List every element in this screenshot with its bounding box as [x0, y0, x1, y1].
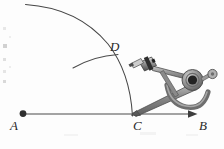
label-point-b: B	[199, 119, 207, 132]
arrowhead-b	[188, 110, 198, 118]
figure-canvas: A C B D	[0, 0, 224, 149]
label-point-c: C	[133, 119, 142, 132]
pivot-hub-core	[188, 75, 197, 84]
thumb-knob-core	[211, 72, 214, 75]
arc-centre-c	[73, 55, 118, 69]
construction-drawing	[0, 0, 224, 149]
drawing-compass	[129, 56, 218, 116]
pencil-clamp	[129, 56, 157, 71]
arc-centre-a	[26, 5, 133, 117]
label-point-d: D	[110, 40, 119, 53]
label-point-a: A	[10, 119, 18, 132]
point-a-dot	[20, 110, 27, 117]
